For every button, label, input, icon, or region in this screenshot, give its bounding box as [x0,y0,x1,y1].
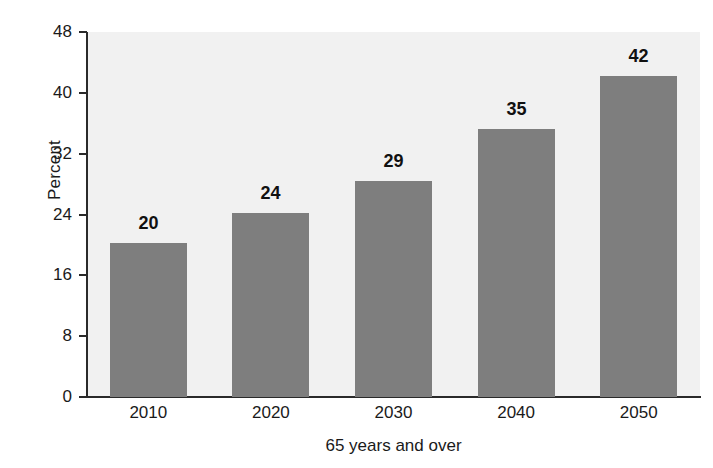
bar-chart: Percent 081624324048 2024293542 20102020… [0,0,713,468]
y-tick-label: 16 [0,266,72,283]
y-tick-mark [79,214,87,216]
bar-value-label: 29 [335,152,452,170]
y-tick-label: 32 [0,145,72,162]
y-tick-label: 0 [0,388,72,405]
x-tick-label: 2020 [211,404,331,421]
y-tick-mark [79,153,87,155]
x-axis-title: 65 years and over [87,437,700,454]
bar-value-label: 35 [458,100,575,118]
y-tick-label: 24 [0,206,72,223]
y-tick-mark [79,31,87,33]
bar [110,243,187,397]
x-tick-label: 2010 [88,404,208,421]
bar [355,181,432,397]
bar-value-label: 24 [212,184,329,202]
y-tick-mark [79,335,87,337]
y-tick-label: 48 [0,23,72,40]
y-tick-mark [79,396,87,398]
y-tick-mark [79,274,87,276]
x-tick-label: 2050 [579,404,699,421]
bar-value-label: 20 [90,214,207,232]
y-tick-mark [79,92,87,94]
x-tick-label: 2030 [334,404,454,421]
y-tick-label: 40 [0,84,72,101]
x-tick-label: 2040 [456,404,576,421]
bar [600,76,677,397]
bar [232,213,309,397]
bar-value-label: 42 [580,47,697,65]
y-tick-label: 8 [0,327,72,344]
bar [478,129,555,397]
